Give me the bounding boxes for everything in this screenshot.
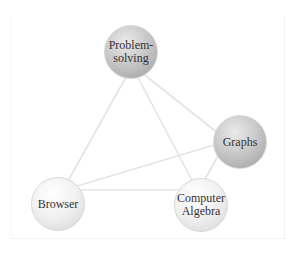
node-problem-solving: Problem- solving: [104, 25, 158, 79]
edge-problem-solving-graphs: [136, 68, 224, 138]
edge-problem-solving-computer-algebra: [133, 68, 197, 190]
node-computer-algebra: Computer Algebra: [174, 178, 228, 232]
node-label: solving: [109, 52, 154, 65]
node-label: Graphs: [223, 136, 258, 149]
edge-problem-solving-browser: [63, 68, 131, 190]
node-label: Browser: [38, 198, 79, 211]
node-browser: Browser: [31, 177, 85, 231]
node-label: Algebra: [177, 205, 225, 218]
node-graphs: Graphs: [213, 115, 267, 169]
